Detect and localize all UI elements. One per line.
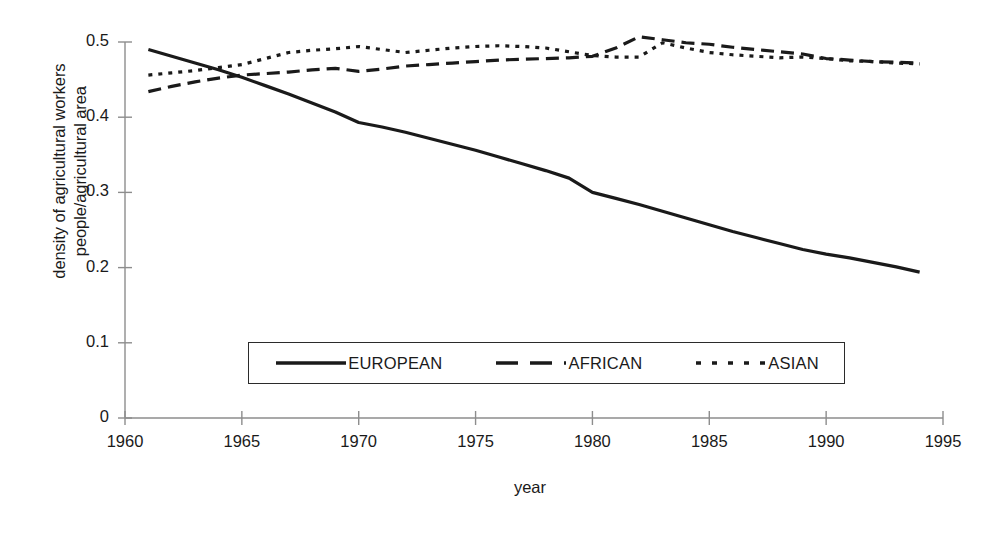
plot-area xyxy=(0,0,1000,537)
data-series-lines xyxy=(148,37,919,272)
legend-label: AFRICAN xyxy=(568,354,642,373)
series-line-african xyxy=(148,37,919,92)
chart-figure: density of agricultural workers people/a… xyxy=(0,0,1000,537)
legend-label: EUROPEAN xyxy=(348,354,442,373)
legend-swatch-solid xyxy=(274,356,348,370)
legend-item-european[interactable]: EUROPEAN xyxy=(274,354,442,373)
legend-swatch-dashed xyxy=(494,356,568,370)
legend-item-african[interactable]: AFRICAN xyxy=(494,354,642,373)
x-axis-label: year xyxy=(460,478,600,497)
legend-swatch-dotted xyxy=(694,356,768,370)
legend-label: ASIAN xyxy=(768,354,819,373)
series-line-european xyxy=(148,50,919,273)
legend: EUROPEANAFRICANASIAN xyxy=(248,342,845,384)
legend-item-asian[interactable]: ASIAN xyxy=(694,354,819,373)
